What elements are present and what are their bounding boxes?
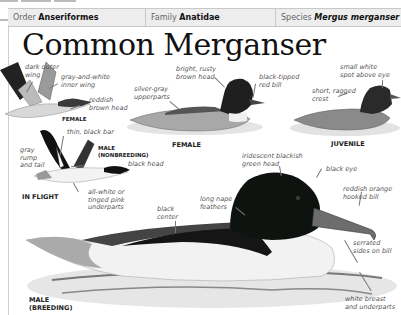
leader-line bbox=[382, 80, 383, 88]
label-serrated-sides-bill: serratedsides on bill bbox=[353, 240, 391, 255]
label-white-breast: white breastand underparts bbox=[345, 296, 395, 311]
label-reddish-orange-bill: reddish orangehooked bill bbox=[343, 186, 392, 201]
label-small-white-spot: small whitespot above eye bbox=[340, 64, 390, 79]
caption-male-nonbreeding: MALE(NONBREEDING) bbox=[98, 145, 149, 158]
label-dark-outer-wing: dark outerwing bbox=[25, 64, 59, 79]
order-value: Anseriformes bbox=[38, 13, 98, 22]
species-cell: Species Mergus merganser bbox=[276, 9, 401, 26]
label-black-head: black head bbox=[128, 161, 164, 169]
species-value: Mergus merganser bbox=[314, 13, 399, 22]
caption-in-flight: IN FLIGHT bbox=[22, 193, 58, 201]
label-reddish-brown-head: reddishbrown head bbox=[89, 97, 128, 112]
caption-female: FEMALE bbox=[172, 141, 201, 149]
cut-off-text-line bbox=[0, 0, 120, 3]
page-title: Common Merganser bbox=[22, 27, 326, 63]
label-iridescent-head: iridescent blackishgreen head bbox=[242, 153, 303, 168]
order-label: Order bbox=[13, 13, 36, 22]
family-value: Anatidae bbox=[179, 13, 219, 22]
label-short-ragged-crest: short, raggedcrest bbox=[312, 88, 356, 103]
label-thin-black-bar: thin, black bar bbox=[67, 129, 114, 137]
order-cell: Order Anseriformes bbox=[8, 9, 146, 26]
caption-juvenile: JUVENILE bbox=[331, 140, 365, 148]
label-long-nape-feathers: long napefeathers bbox=[200, 196, 232, 211]
family-label: Family bbox=[151, 13, 177, 22]
species-label: Species bbox=[281, 13, 312, 22]
taxonomy-header: Order Anseriformes Family Anatidae Speci… bbox=[8, 8, 401, 27]
caption-male-breeding: MALE(BREEDING) bbox=[29, 296, 72, 312]
label-black-center: blackcenter bbox=[157, 206, 178, 221]
label-silver-gray-upperparts: silver-grayupperparts bbox=[134, 86, 170, 101]
caption-female-flight: FEMALE bbox=[62, 115, 87, 123]
label-black-tipped-red-bill: black-tippedred bill bbox=[259, 74, 299, 89]
label-bright-rusty-brown-head: bright, rustybrown head bbox=[176, 66, 216, 81]
family-cell: Family Anatidae bbox=[146, 9, 276, 26]
label-gray-white-inner-wing: gray-and-whiteinner wing bbox=[61, 74, 110, 89]
label-gray-rump-tail: grayrumpand tail bbox=[20, 147, 44, 170]
leader-line bbox=[175, 221, 176, 233]
label-all-white-underparts: all-white ortinged pinkunderparts bbox=[88, 189, 125, 212]
label-black-eye: black eye bbox=[326, 166, 357, 174]
